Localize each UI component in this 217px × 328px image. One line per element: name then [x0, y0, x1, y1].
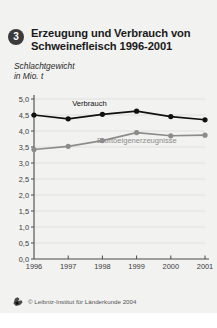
x-axis-labels: 199619971998199920002001: [26, 262, 213, 271]
data-point: [66, 144, 71, 149]
y-tick-label: 1,5: [19, 207, 29, 216]
data-point: [31, 147, 36, 152]
x-tick-label: 1997: [60, 262, 76, 271]
y-tick-label: 0,5: [19, 239, 29, 248]
y-tick-label: 4,0: [19, 127, 29, 136]
y-tick-label: 3,5: [19, 143, 29, 152]
data-point: [168, 114, 173, 119]
data-point: [134, 109, 139, 114]
x-axis: [34, 95, 209, 259]
x-tick-label: 2001: [197, 262, 213, 271]
series-label-0: Verbrauch: [72, 99, 107, 108]
y-tick-label: 4,5: [19, 111, 29, 120]
leibniz-institut-logo-icon: [12, 296, 24, 308]
x-tick-label: 1998: [94, 262, 110, 271]
y-tick-label: 2,0: [19, 191, 29, 200]
y-tick-label: 2,5: [19, 175, 29, 184]
x-tick-label: 1999: [128, 262, 144, 271]
data-point: [134, 130, 139, 135]
data-point: [66, 116, 71, 121]
data-point: [31, 112, 36, 117]
y-tick-label: 5,0: [19, 95, 29, 104]
data-point: [202, 133, 207, 138]
x-tick-label: 1996: [26, 262, 42, 271]
series-line-0: [34, 111, 205, 120]
x-tick-label: 2000: [163, 262, 179, 271]
chart-card: 3 Erzeugung und Verbrauch von Schweinefl…: [0, 0, 217, 313]
data-point: [202, 117, 207, 122]
bottom-strip: [0, 313, 217, 328]
y-tick-label: 1,0: [19, 223, 29, 232]
copyright-text: © Leibniz-Institut für Länderkunde 2004: [28, 298, 136, 305]
chart-gridlines: [34, 99, 205, 243]
y-tick-label: 3,0: [19, 159, 29, 168]
data-point: [100, 112, 105, 117]
series-label-1: Bruttoeigenerzeugnisse: [97, 136, 177, 145]
series-inline-labels: VerbrauchBruttoeigenerzeugnisse: [72, 99, 177, 145]
y-axis-labels: 0,00,51,01,52,02,53,03,54,04,55,0: [19, 95, 29, 264]
line-chart: 0,00,51,01,52,02,53,03,54,04,55,0 199619…: [0, 0, 217, 313]
chart-footer: © Leibniz-Institut für Länderkunde 2004: [12, 296, 212, 310]
